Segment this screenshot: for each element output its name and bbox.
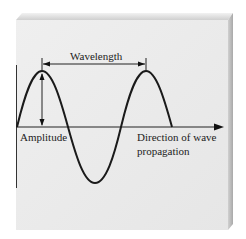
direction-label-line1: Direction of wave — [137, 131, 216, 144]
wave-diagram: Wavelength Amplitude Direction of wave p… — [0, 0, 246, 239]
panel-side-bevel — [228, 13, 233, 230]
wavelength-label: Wavelength — [70, 50, 122, 63]
direction-label-line2: propagation — [137, 145, 190, 158]
panel-top-bevel — [16, 13, 233, 20]
amplitude-label: Amplitude — [20, 131, 67, 144]
wave-diagram-graphic — [0, 0, 246, 239]
